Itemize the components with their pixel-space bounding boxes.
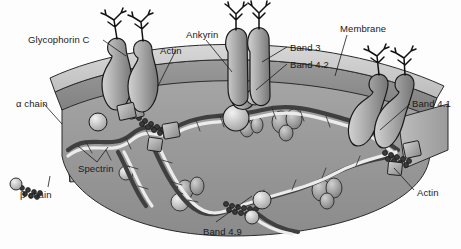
label-actin-right: Actin xyxy=(417,188,439,198)
label-actin-top: Actin xyxy=(160,46,182,56)
oligosaccharide-tree xyxy=(225,1,270,30)
label-spectrin: Spectrin xyxy=(78,164,114,174)
label-alpha-chain: α chain xyxy=(16,99,48,109)
label-band-3: Band 3 xyxy=(290,43,321,53)
figure-canvas: Glycophorin C Actin Ankyrin Band 3 Band … xyxy=(0,0,461,249)
label-membrane: Membrane xyxy=(340,24,386,34)
label-band-4-2: Band 4.2 xyxy=(290,60,329,70)
band-4-1-cube xyxy=(117,102,137,120)
label-ankyrin: Ankyrin xyxy=(186,30,218,40)
leader-beta-chain xyxy=(48,176,50,187)
label-glycophorin-c: Glycophorin C xyxy=(28,35,90,45)
label-beta-chain: β chain xyxy=(20,190,52,200)
oligosaccharide-tree xyxy=(101,8,153,41)
label-band-4-1: Band 4.1 xyxy=(412,99,451,109)
label-band-4-9: Band 4.9 xyxy=(203,227,242,237)
band-3-dimer xyxy=(225,1,270,106)
